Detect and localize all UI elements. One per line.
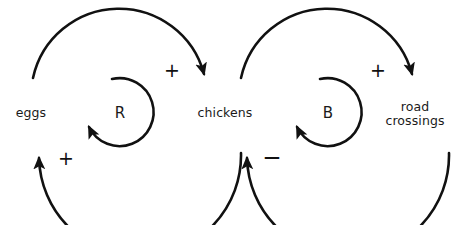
polarity-chickens-to-road-crossings: + (370, 61, 386, 80)
node-label-chickens: chickens (198, 106, 253, 120)
polarity-chickens-to-eggs: + (58, 149, 74, 168)
loop-letter-balancing: B (323, 104, 333, 122)
causal-loop-diagram: eggs chickens road crossings R B + + + − (0, 0, 459, 225)
loop-letter-reinforcing: R (115, 104, 125, 122)
node-label-eggs: eggs (16, 106, 46, 120)
link-chickens-to-road-crossings-arc (241, 9, 412, 78)
polarity-eggs-to-chickens: + (164, 61, 180, 80)
polarity-road-crossings-to-chickens: − (262, 148, 281, 167)
node-label-road-crossings: road crossings (385, 100, 444, 127)
